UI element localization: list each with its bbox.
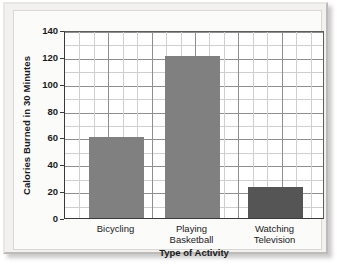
gridline-minor-vertical: [79, 32, 80, 218]
y-tick-label: 140: [14, 26, 58, 36]
bar-watching-television[interactable]: [248, 187, 303, 218]
y-tick-label: 120: [14, 53, 58, 63]
bar-playing-basketball[interactable]: [165, 56, 220, 218]
plot-area: [64, 31, 324, 219]
x-tick-label-watching-television: WatchingTelevision: [225, 223, 325, 245]
figure-canvas: Calories Burned in 30 Minutes 0204060801…: [13, 10, 322, 250]
figure-frame: Calories Burned in 30 Minutes 0204060801…: [3, 2, 328, 254]
y-tick-mark: [60, 219, 64, 220]
x-axis-title: Type of Activity: [64, 247, 324, 258]
y-tick-label: 80: [14, 107, 58, 117]
y-tick-label: 20: [14, 187, 58, 197]
bar-bicycling[interactable]: [89, 137, 144, 218]
x-tick-label-line: Television: [225, 234, 325, 245]
y-tick-label: 60: [14, 133, 58, 143]
gridline-major-vertical: [238, 32, 239, 218]
y-axis-title-text: Calories Burned in 30 Minutes: [22, 55, 33, 194]
x-tick-label-line: Watching: [225, 223, 325, 234]
gridline-major-vertical: [152, 32, 153, 218]
y-tick-label: 100: [14, 80, 58, 90]
gridline-minor-vertical: [311, 32, 312, 218]
gridline-minor-vertical: [224, 32, 225, 218]
y-tick-label: 40: [14, 160, 58, 170]
y-tick-label: 0: [14, 214, 58, 224]
